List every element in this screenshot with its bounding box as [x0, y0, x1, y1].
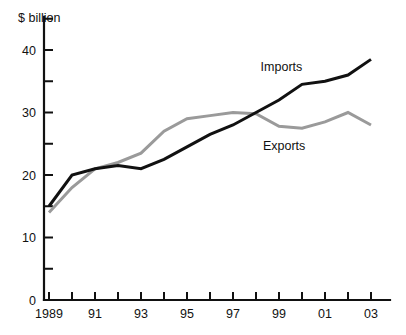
chart-container: $ billion 010203040 198991939597990103 I… — [0, 0, 406, 335]
x-tick-label-2003: 03 — [364, 307, 378, 321]
x-tick-label-2001: 01 — [318, 307, 332, 321]
y-tick-label-10: 10 — [22, 231, 36, 245]
line-chart: $ billion 010203040 198991939597990103 I… — [0, 0, 406, 335]
y-tick-label-30: 30 — [22, 106, 36, 120]
data-series-group — [49, 59, 371, 212]
y-tick-label-20: 20 — [22, 169, 36, 183]
x-tick-label-1989: 1989 — [35, 307, 63, 321]
series-label-exports: Exports — [263, 139, 305, 153]
y-tick-label-0: 0 — [29, 294, 36, 308]
x-tick-label-1995: 95 — [180, 307, 194, 321]
x-tick-label-1993: 93 — [134, 307, 148, 321]
x-axis-ticks — [49, 292, 371, 300]
y-axis-title: $ billion — [18, 11, 60, 25]
series-line-exports — [49, 113, 371, 213]
series-line-imports — [49, 59, 371, 206]
y-tick-label-40: 40 — [22, 44, 36, 58]
x-axis-tick-labels: 198991939597990103 — [35, 307, 378, 321]
series-label-imports: Imports — [261, 60, 303, 74]
x-tick-label-1997: 97 — [226, 307, 240, 321]
y-axis-ticks — [44, 19, 53, 269]
x-tick-label-1999: 99 — [272, 307, 286, 321]
x-tick-label-1991: 91 — [88, 307, 102, 321]
y-axis-tick-labels: 010203040 — [22, 44, 36, 308]
